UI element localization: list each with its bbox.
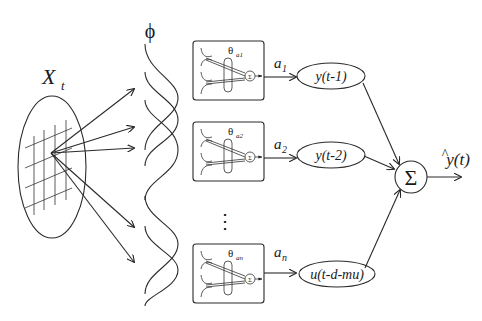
network-box-1: Σ θ a1 bbox=[193, 41, 264, 100]
regressor-to-sum-arrow bbox=[364, 156, 394, 169]
output-text: y(t) bbox=[444, 150, 470, 169]
network-box-2: Σ θ a2 bbox=[193, 122, 264, 181]
weight-label-n: a bbox=[274, 244, 282, 260]
input-subscript: t bbox=[61, 78, 65, 93]
input-arrow bbox=[51, 153, 134, 227]
regressor-to-sum-arrow bbox=[365, 190, 400, 268]
node-sum-symbol: Σ bbox=[248, 74, 252, 80]
regressor-2: y(t-2) bbox=[297, 142, 365, 168]
basis-functions: ϕ bbox=[145, 20, 178, 306]
input-label: X bbox=[41, 64, 57, 89]
node-sum-symbol: Σ bbox=[248, 277, 252, 283]
regressor-1: y(t-1) bbox=[297, 63, 365, 89]
theta-subscript: a2 bbox=[236, 132, 244, 140]
weight-subscript-1: 1 bbox=[282, 63, 287, 74]
theta-label: θ bbox=[228, 125, 233, 137]
input-grid-icon bbox=[25, 120, 72, 215]
weight-label-1: a bbox=[274, 55, 282, 71]
regressor-label: y(t-2) bbox=[313, 148, 346, 164]
node-sum-symbol: Σ bbox=[248, 155, 252, 161]
theta-label: θ bbox=[228, 44, 233, 56]
regressor-label: y(t-1) bbox=[313, 69, 346, 85]
input-arrow bbox=[51, 89, 134, 153]
regressor-n: u(t-d-mu) bbox=[299, 261, 375, 287]
output-sum-node: Σ bbox=[395, 161, 427, 193]
basis-label: ϕ bbox=[145, 20, 156, 43]
sum-symbol: Σ bbox=[405, 165, 418, 190]
theta-label: θ bbox=[228, 247, 233, 259]
theta-subscript: an bbox=[236, 254, 244, 262]
theta-subscript: a1 bbox=[236, 51, 243, 59]
regressor-to-sum-arrow bbox=[363, 83, 399, 164]
weight-label-2: a bbox=[274, 136, 282, 152]
weight-subscript-2: 2 bbox=[282, 144, 287, 155]
input-arrows bbox=[51, 89, 134, 262]
basis-curves bbox=[145, 44, 178, 306]
functional-network-diagram: X t ϕ bbox=[0, 0, 482, 321]
output-label: ^ y(t) bbox=[442, 147, 470, 169]
regressor-label: u(t-d-mu) bbox=[310, 267, 364, 283]
network-box-n: Σ θ an bbox=[193, 244, 264, 303]
ellipsis: ⋮ bbox=[215, 210, 235, 232]
input-arrow bbox=[51, 153, 134, 262]
weight-subscript-n: n bbox=[282, 252, 287, 263]
